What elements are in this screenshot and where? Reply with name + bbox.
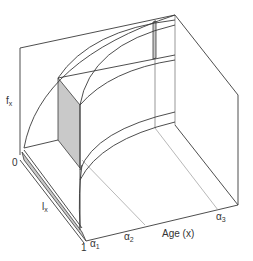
shaded-column (153, 21, 156, 59)
lx-axis-line (20, 160, 84, 243)
shaded-panel (58, 78, 80, 168)
lx-axis-label: lx (42, 201, 48, 213)
alpha2-label: α2 (124, 231, 134, 243)
lx-inner-line (24, 150, 82, 228)
lx-start-label: 0 (12, 157, 18, 168)
surface-curve-3 (80, 25, 175, 105)
floor-right-diagonal (175, 125, 238, 205)
surface-lower-curve-2 (80, 122, 175, 180)
age-axis-label: Age (x) (162, 228, 194, 239)
alpha3-label: α3 (216, 211, 226, 223)
surface-lower-curve-1 (80, 112, 175, 170)
floor-back-edge (24, 140, 58, 148)
surface-ridge-line-2 (80, 60, 175, 105)
fx-axis-label: fx (6, 95, 13, 107)
floor-alpha2-diagonal (82, 160, 145, 225)
lx-end-label: 1 (81, 242, 87, 253)
right-top-diagonal-edge (175, 15, 238, 95)
alpha1-label: α1 (90, 238, 100, 250)
survival-fecundity-surface-diagram: fx 0 lx 1 α1 α2 α3 Age (x) (0, 0, 253, 261)
lx-shaded-strip (22, 152, 86, 241)
